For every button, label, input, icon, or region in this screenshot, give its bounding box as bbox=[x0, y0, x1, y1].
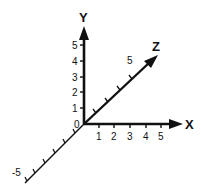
z-axis: 5 Z bbox=[84, 39, 160, 124]
y-tick-label: 1 bbox=[72, 103, 78, 114]
y-tick-label: 2 bbox=[72, 87, 78, 98]
y-axis-label: Y bbox=[79, 10, 88, 25]
x-tick-label: 5 bbox=[158, 131, 164, 142]
z-tick-label-negative: -5 bbox=[12, 167, 21, 178]
z-tick-label-positive: 5 bbox=[127, 55, 133, 66]
x-tick-label: 4 bbox=[143, 131, 149, 142]
x-arrowhead-icon bbox=[169, 119, 183, 129]
y-tick-label: 4 bbox=[72, 56, 78, 67]
y-tick-label: 5 bbox=[72, 40, 78, 51]
x-tick-label: 1 bbox=[96, 131, 102, 142]
y-arrowhead-icon bbox=[79, 26, 89, 40]
x-tick-label: 2 bbox=[111, 131, 117, 142]
z-axis-negative: -5 bbox=[12, 124, 84, 183]
x-axis: 1 2 3 4 5 X bbox=[84, 117, 194, 142]
y-tick-label: 3 bbox=[72, 72, 78, 83]
x-axis-label: X bbox=[185, 117, 194, 132]
axes-diagram: 1 2 3 4 5 Y 1 2 3 4 5 X 5 Z bbox=[0, 0, 201, 195]
z-axis-label: Z bbox=[152, 39, 160, 54]
y-axis: 1 2 3 4 5 Y bbox=[72, 10, 89, 124]
x-tick-label: 3 bbox=[127, 131, 133, 142]
origin-label: 0 bbox=[74, 119, 80, 130]
